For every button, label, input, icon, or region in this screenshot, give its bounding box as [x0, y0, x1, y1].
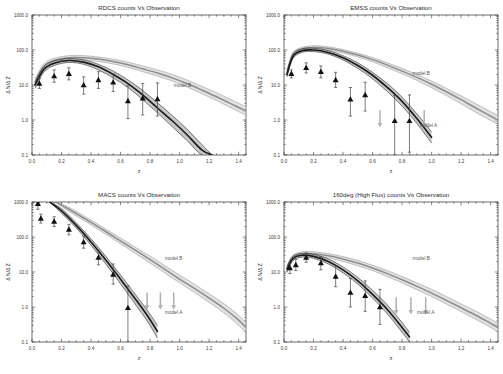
xtick-label: 0.8 — [147, 159, 154, 164]
ytick-label: 1000.0 — [14, 200, 28, 205]
marker-triangle — [35, 201, 41, 206]
model-b-curve-edge-lo — [287, 255, 498, 332]
upper-limit-arrow — [158, 292, 163, 309]
upper-limit-arrow — [145, 292, 150, 309]
marker-triangle — [333, 77, 339, 82]
panel-title: EMSS counts Vs Observation — [350, 4, 432, 11]
xtick-label: 0.2 — [310, 159, 317, 164]
y-axis-label: Δ N/Δ Z — [5, 76, 11, 94]
model-a-curve-line — [287, 50, 432, 137]
upper-limit-arrow — [394, 297, 399, 314]
model-a-curve-band — [287, 48, 432, 143]
xtick-label: 0.2 — [310, 346, 317, 351]
model-annotation: model B — [412, 71, 430, 76]
model-a-curve — [50, 202, 158, 338]
ytick-label: 100.0 — [17, 48, 29, 53]
ytick-label: 0.1 — [22, 153, 29, 158]
ytick-label: 1.0 — [22, 118, 29, 123]
model-a-curve — [287, 48, 432, 143]
ytick-label: 1000.0 — [14, 13, 28, 18]
panel-emss: EMSS counts Vs Observation1000.0100.010.… — [252, 0, 503, 187]
marker-triangle — [51, 218, 57, 223]
ytick-label: 0.1 — [22, 340, 29, 345]
model-a-curve — [287, 253, 410, 342]
model-a-curve-edge-hi — [35, 59, 212, 155]
ytick-label: 1000.0 — [266, 200, 280, 205]
plot-frame — [32, 15, 246, 155]
model-annotation: model B — [174, 83, 192, 88]
ytick-label: 1000.0 — [266, 13, 280, 18]
xtick-label: 0.8 — [147, 346, 154, 351]
xtick-label: 1.4 — [487, 159, 494, 164]
marker-triangle — [293, 262, 299, 267]
model-annotation: model B — [412, 256, 430, 261]
x-axis-label: z — [390, 168, 393, 174]
data-point — [38, 214, 44, 223]
xtick-label: 1.4 — [235, 159, 242, 164]
panel-rdcs: RDCS counts Vs Observation1000.0100.010.… — [0, 0, 251, 187]
marker-triangle — [66, 71, 72, 76]
model-a-curve — [35, 59, 212, 157]
data-point — [303, 63, 309, 73]
xtick-label: 0.2 — [58, 159, 65, 164]
xtick-label: 0.4 — [340, 159, 347, 164]
marker-triangle — [110, 79, 116, 84]
ytick-label: 1.0 — [274, 305, 281, 310]
upper-limit-arrow — [409, 297, 414, 314]
model-b-curve-band — [287, 46, 498, 125]
marker-triangle — [392, 118, 398, 123]
xtick-label: 0.8 — [399, 159, 406, 164]
model-b-curve — [35, 55, 246, 115]
xtick-label: 1.0 — [176, 159, 183, 164]
xtick-label: 0.4 — [340, 346, 347, 351]
marker-triangle — [95, 77, 101, 82]
ytick-label: 0.1 — [274, 153, 281, 158]
xtick-label: 0.6 — [117, 159, 124, 164]
axis-ticks: 1000.0100.010.01.00.10.00.20.40.60.81.01… — [266, 200, 498, 351]
xtick-label: 1.0 — [176, 346, 183, 351]
panel-160deg: 160deg (High Flux) counts Vs Observation… — [252, 187, 503, 374]
marker-triangle — [154, 96, 160, 101]
marker-triangle — [125, 305, 131, 310]
model-a-curve-band — [35, 59, 212, 157]
data-point — [333, 72, 339, 87]
model-b-curve — [287, 46, 498, 125]
xtick-label: 0.4 — [88, 159, 95, 164]
data-point — [347, 279, 353, 307]
panel-emss-plot: EMSS counts Vs Observation1000.0100.010.… — [252, 0, 503, 187]
x-axis-label: z — [138, 355, 141, 361]
xtick-label: 0.8 — [399, 346, 406, 351]
data-points — [288, 63, 412, 155]
upper-limit-arrow — [171, 292, 176, 309]
marker-triangle — [81, 239, 87, 244]
model-annotation: model A — [420, 123, 438, 128]
xtick-label: 0.0 — [29, 159, 36, 164]
marker-triangle — [125, 98, 131, 103]
axis-ticks: 1000.0100.010.01.00.10.00.20.40.60.81.01… — [14, 200, 246, 351]
xtick-label: 1.4 — [487, 346, 494, 351]
model-a-curve-line — [287, 255, 410, 337]
upper-limit-arrows — [145, 292, 176, 309]
ytick-label: 100.0 — [269, 235, 281, 240]
data-point — [81, 77, 87, 94]
xtick-label: 1.4 — [235, 346, 242, 351]
marker-triangle — [362, 293, 368, 298]
data-point — [293, 259, 299, 270]
data-point — [140, 84, 146, 115]
panel-macs: MACS counts Vs Observation1000.0100.010.… — [0, 187, 251, 374]
model-b-curve-band — [56, 202, 246, 333]
axis-ticks: 1000.0100.010.01.00.10.00.20.40.60.81.01… — [266, 13, 498, 164]
model-a-curve-edge-hi — [287, 253, 410, 332]
xtick-label: 0.0 — [281, 159, 288, 164]
data-point — [288, 70, 294, 78]
ytick-label: 10.0 — [19, 270, 28, 275]
ytick-label: 0.1 — [274, 340, 281, 345]
xtick-label: 0.2 — [58, 346, 65, 351]
model-b-curve-line — [287, 47, 498, 120]
ytick-label: 100.0 — [17, 235, 29, 240]
marker-triangle — [51, 73, 57, 78]
marker-triangle — [288, 71, 294, 76]
xtick-label: 0.0 — [29, 346, 36, 351]
data-point — [362, 82, 368, 111]
xtick-label: 1.0 — [428, 159, 435, 164]
